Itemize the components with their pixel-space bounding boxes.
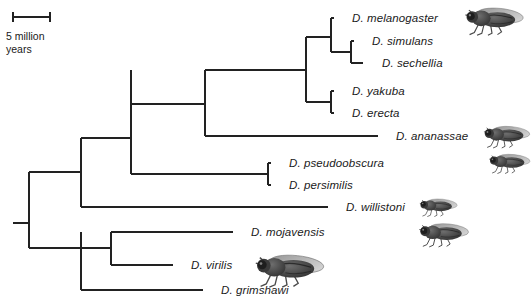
- tip-label-d--pseudoobscura: D. pseudoobscura: [289, 157, 384, 169]
- tip-label-d--erecta: D. erecta: [352, 107, 400, 119]
- phylogenetic-tree-canvas: [0, 0, 532, 306]
- scale-bar: [13, 12, 50, 22]
- tip-label-d--simulans: D. simulans: [372, 35, 433, 47]
- tip-label-d--persimilis: D. persimilis: [289, 179, 353, 191]
- tip-label-d--willistoni: D. willistoni: [346, 201, 405, 213]
- tip-label-d--virilis: D. virilis: [191, 259, 232, 271]
- tip-label-d--grimshawi: D. grimshawi: [221, 284, 289, 296]
- tree-branches: [13, 18, 378, 290]
- tip-label-d--sechellia: D. sechellia: [382, 57, 443, 69]
- tip-label-d--mojavensis: D. mojavensis: [251, 226, 325, 238]
- tip-label-d--ananassae: D. ananassae: [396, 130, 468, 142]
- tip-label-d--yakuba: D. yakuba: [352, 85, 405, 97]
- tip-label-d--melanogaster: D. melanogaster: [352, 12, 438, 24]
